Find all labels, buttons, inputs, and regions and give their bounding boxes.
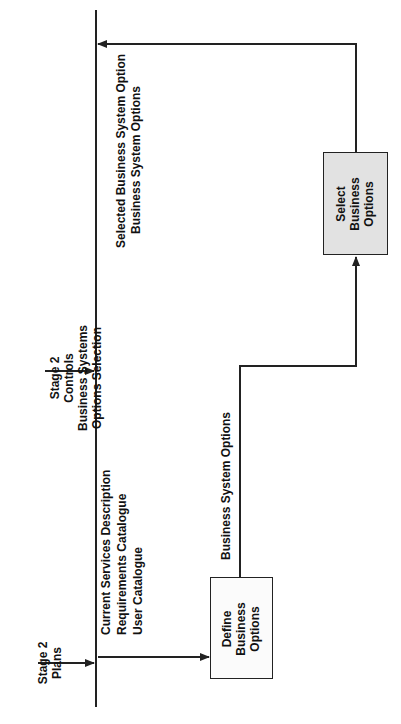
label-line: Select [334, 172, 348, 236]
label-line: Options Selection [90, 313, 104, 443]
label-line: Selected Business System Option [114, 54, 129, 248]
label-line: Business Systems [76, 313, 90, 443]
label-line: Business System Options [129, 54, 144, 248]
select-output-label: Selected Business System Option Business… [114, 54, 144, 248]
define-box-label: Define Business Options [220, 599, 262, 659]
label-line: Current Services Description [98, 470, 114, 635]
select-box-label: Select Business Options [334, 172, 376, 236]
label-line: Business [234, 599, 248, 659]
label-line: Business [348, 172, 362, 236]
define-business-options-box[interactable]: Define Business Options [210, 577, 273, 679]
label-line: Stage 2 [36, 633, 50, 693]
label-line: Stage 2 [48, 313, 62, 443]
label-line: Business System Options [219, 412, 233, 560]
label-line: Controls [62, 313, 76, 443]
label-line: Options [248, 599, 262, 659]
stage2-plans-label: Stage 2 Plans [36, 633, 64, 693]
label-line: User Catalogue [130, 470, 146, 635]
define-to-select-connector [240, 257, 356, 577]
label-line: Options [362, 172, 376, 236]
stage2-controls-label: Stage 2 Controls Business Systems Option… [48, 313, 104, 443]
label-line: Define [220, 599, 234, 659]
label-line: Requirements Catalogue [114, 470, 130, 635]
select-business-options-box[interactable]: Select Business Options [323, 152, 388, 255]
label-line: Plans [50, 633, 64, 693]
define-inputs-label: Current Services Description Requirement… [98, 470, 146, 635]
business-system-options-label: Business System Options [219, 412, 233, 560]
